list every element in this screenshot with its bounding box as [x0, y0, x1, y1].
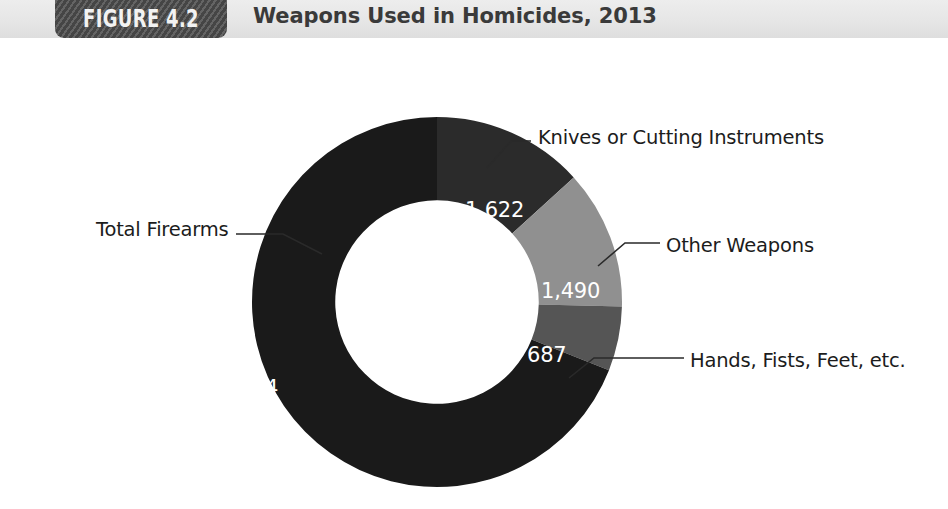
- callout-label-total-firearms: Total Firearms: [96, 218, 229, 241]
- callout-label-hands-fists-feet: Hands, Fists, Feet, etc.: [690, 349, 905, 372]
- slice-value-hands-fists-feet: 687: [527, 343, 566, 367]
- callout-label-knives: Knives or Cutting Instruments: [538, 126, 824, 149]
- slice-value-knives: 1,622: [465, 198, 524, 222]
- callout-label-other-weapons: Other Weapons: [666, 234, 814, 257]
- slice-value-other-weapons: 1,490: [541, 279, 600, 303]
- figure-page: FIGURE 4.2 Weapons Used in Homicides, 20…: [0, 0, 948, 509]
- chart-area: Total Firearms Knives or Cutting Instrum…: [0, 38, 948, 509]
- figure-title: Weapons Used in Homicides, 2013: [253, 4, 657, 28]
- figure-header-band: FIGURE 4.2 Weapons Used in Homicides, 20…: [0, 0, 948, 38]
- figure-number-badge: FIGURE 4.2: [55, 0, 227, 38]
- slice-value-total-firearms: 8,454: [219, 376, 278, 400]
- donut-chart: [0, 38, 948, 509]
- figure-number-label: FIGURE 4.2: [72, 4, 210, 33]
